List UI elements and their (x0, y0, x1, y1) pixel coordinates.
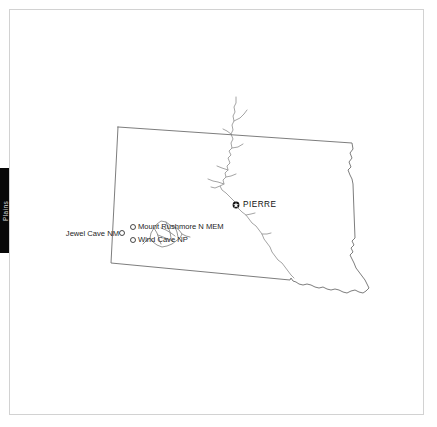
edge-tab-label: Plains (1, 200, 8, 220)
map-canvas[interactable]: PIERRE Jewel Cave NM Mount Rushmore N ME… (0, 0, 437, 427)
edge-tab[interactable]: Plains (0, 168, 9, 253)
park-marker-wind-cave-np[interactable] (131, 238, 136, 243)
missouri-river (208, 97, 294, 278)
park-label-wind-cave-np: Wind Cave NP (138, 236, 188, 244)
capital-label-pierre: PIERRE (243, 201, 276, 209)
park-marker-mount-rushmore-n-mem[interactable] (131, 225, 136, 230)
park-marker-jewel-cave-nm[interactable] (120, 231, 125, 236)
south-dakota-map-svg (0, 0, 437, 427)
park-label-jewel-cave-nm: Jewel Cave NM (66, 230, 119, 238)
park-label-mount-rushmore-n-mem: Mount Rushmore N MEM (138, 223, 224, 231)
capital-marker-pierre[interactable] (233, 202, 240, 209)
